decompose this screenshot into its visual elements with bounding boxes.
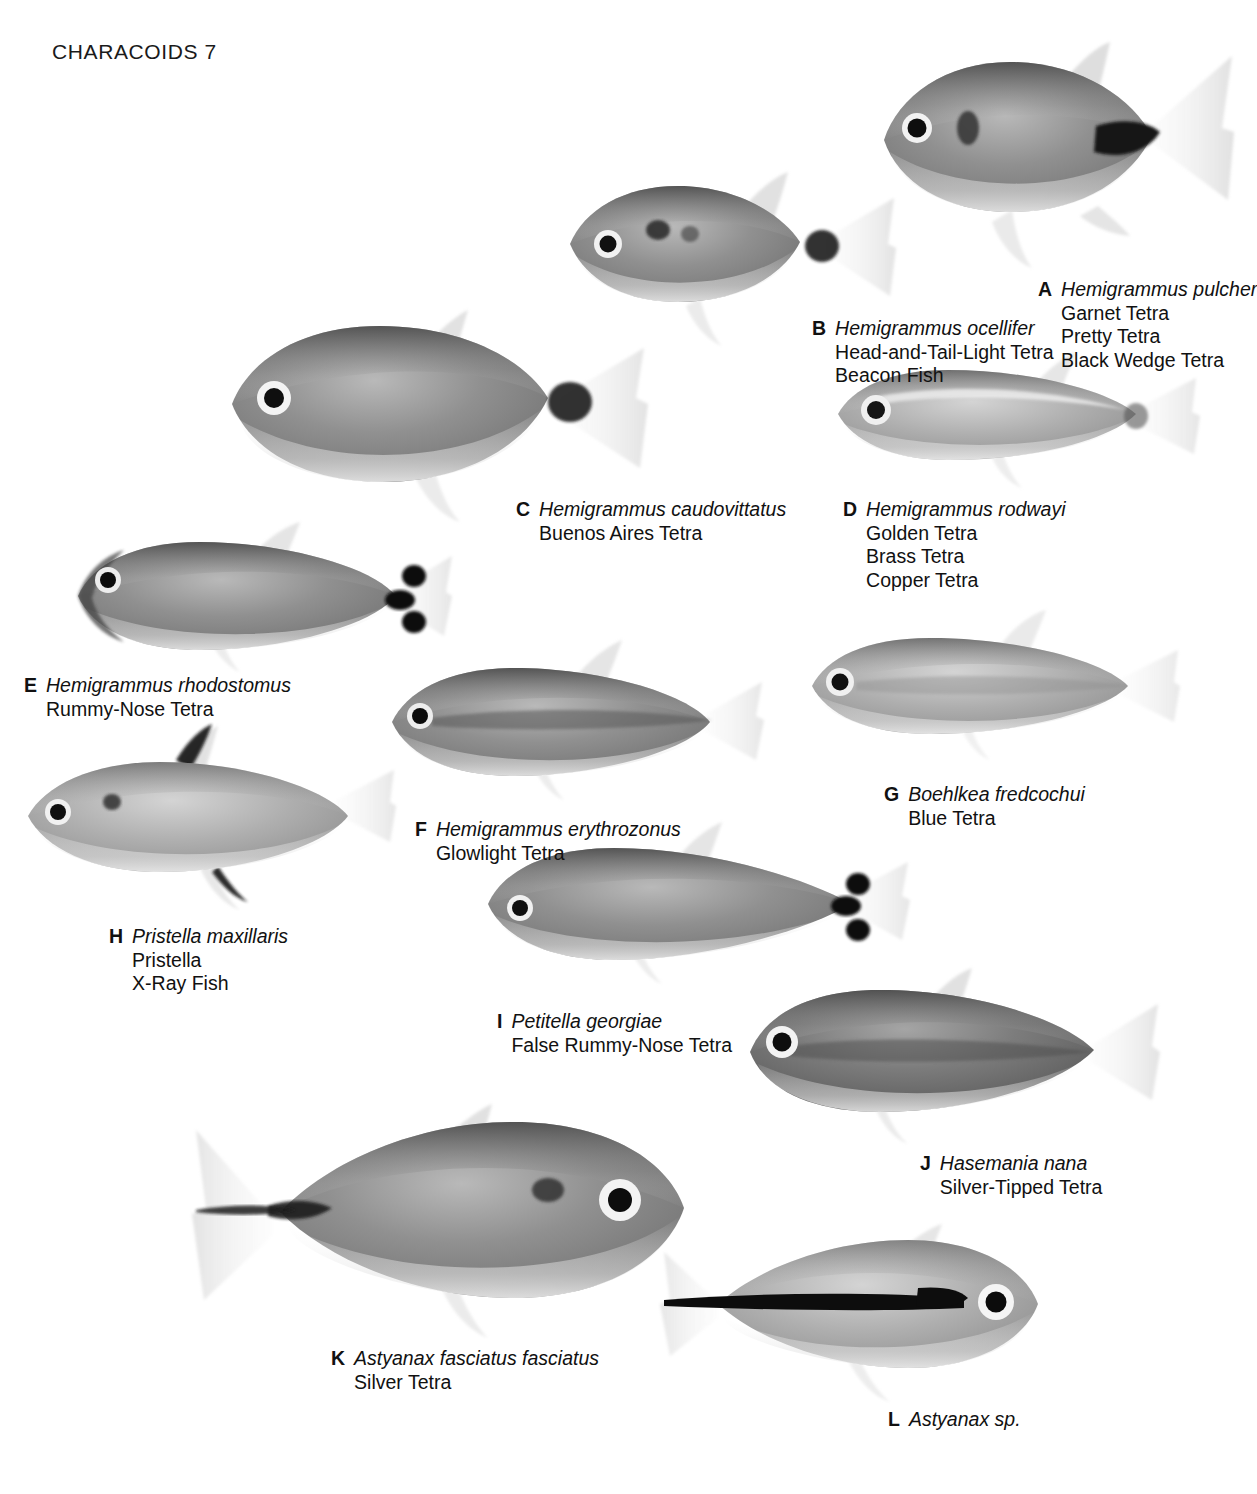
caption-L: L Astyanax sp. — [888, 1408, 1021, 1432]
caption-L-letter: L — [888, 1408, 900, 1432]
caption-G-scientific-name: Boehlkea fredcochui — [908, 783, 1085, 807]
caption-J-common-name-1: Silver-Tipped Tetra — [940, 1176, 1103, 1200]
caption-G-common-name-1: Blue Tetra — [908, 807, 1085, 831]
caption-A-common-name-1: Garnet Tetra — [1061, 302, 1257, 326]
caption-J-scientific-name: Hasemania nana — [940, 1152, 1103, 1176]
caption-C-letter: C — [516, 498, 530, 545]
fish-G-boehlkea-fredcochui — [812, 610, 1180, 760]
caption-D-common-name-1: Golden Tetra — [866, 522, 1065, 546]
caption-D-scientific-name: Hemigrammus rodwayi — [866, 498, 1065, 522]
caption-D-common-name-2: Brass Tetra — [866, 545, 1065, 569]
caption-E: E Hemigrammus rhodostomus Rummy-Nose Tet… — [24, 674, 291, 721]
caption-F-common-name-1: Glowlight Tetra — [436, 842, 681, 866]
fish-H-pristella-maxillaris — [28, 724, 396, 910]
caption-K: K Astyanax fasciatus fasciatus Silver Te… — [331, 1347, 599, 1394]
caption-A-common-name-2: Pretty Tetra — [1061, 325, 1257, 349]
caption-C-common-name-1: Buenos Aires Tetra — [539, 522, 786, 546]
caption-A-scientific-name: Hemigrammus pulcher — [1061, 278, 1257, 302]
caption-F-scientific-name: Hemigrammus erythrozonus — [436, 818, 681, 842]
caption-H-letter: H — [109, 925, 123, 996]
caption-I-common-name-1: False Rummy-Nose Tetra — [511, 1034, 732, 1058]
caption-D-letter: D — [843, 498, 857, 592]
caption-H-common-name-1: Pristella — [132, 949, 288, 973]
caption-B-letter: B — [812, 317, 826, 388]
caption-B-scientific-name: Hemigrammus ocellifer — [835, 317, 1054, 341]
caption-A-common-name-3: Black Wedge Tetra — [1061, 349, 1257, 373]
fish-E-hemigrammus-rhodostomus — [78, 522, 452, 672]
caption-G: G Boehlkea fredcochui Blue Tetra — [884, 783, 1085, 830]
caption-F: F Hemigrammus erythrozonus Glowlight Tet… — [415, 818, 681, 865]
caption-E-scientific-name: Hemigrammus rhodostomus — [46, 674, 291, 698]
caption-L-scientific-name: Astyanax sp. — [909, 1408, 1021, 1432]
caption-I-letter: I — [497, 1010, 502, 1057]
caption-K-common-name-1: Silver Tetra — [354, 1371, 599, 1395]
fish-K-astyanax-fasciatus — [192, 1104, 684, 1338]
caption-F-letter: F — [415, 818, 427, 865]
fish-J-hasemania-nana — [750, 968, 1160, 1144]
caption-C: C Hemigrammus caudovittatus Buenos Aires… — [516, 498, 786, 545]
caption-G-letter: G — [884, 783, 899, 830]
caption-B: B Hemigrammus ocellifer Head-and-Tail-Li… — [812, 317, 1054, 388]
caption-D-common-name-3: Copper Tetra — [866, 569, 1065, 593]
caption-K-scientific-name: Astyanax fasciatus fasciatus — [354, 1347, 599, 1371]
caption-H: H Pristella maxillaris Pristella X-Ray F… — [109, 925, 288, 996]
caption-H-scientific-name: Pristella maxillaris — [132, 925, 288, 949]
caption-J: J Hasemania nana Silver-Tipped Tetra — [920, 1152, 1102, 1199]
fish-L-astyanax-sp — [660, 1224, 1038, 1402]
caption-B-common-name-2: Beacon Fish — [835, 364, 1054, 388]
fish-C-hemigrammus-caudovittatus — [232, 310, 648, 522]
caption-I-scientific-name: Petitella georgiae — [511, 1010, 732, 1034]
caption-E-common-name-1: Rummy-Nose Tetra — [46, 698, 291, 722]
caption-K-letter: K — [331, 1347, 345, 1394]
fish-A-hemigrammus-pulcher — [884, 42, 1234, 268]
caption-I: I Petitella georgiae False Rummy-Nose Te… — [497, 1010, 732, 1057]
caption-H-common-name-2: X-Ray Fish — [132, 972, 288, 996]
caption-B-common-name-1: Head-and-Tail-Light Tetra — [835, 341, 1054, 365]
caption-C-scientific-name: Hemigrammus caudovittatus — [539, 498, 786, 522]
caption-A: A Hemigrammus pulcher Garnet Tetra Prett… — [1038, 278, 1257, 372]
caption-E-letter: E — [24, 674, 37, 721]
fish-F-hemigrammus-erythrozonus — [392, 640, 764, 800]
caption-D: D Hemigrammus rodwayi Golden Tetra Brass… — [843, 498, 1065, 592]
caption-J-letter: J — [920, 1152, 931, 1199]
